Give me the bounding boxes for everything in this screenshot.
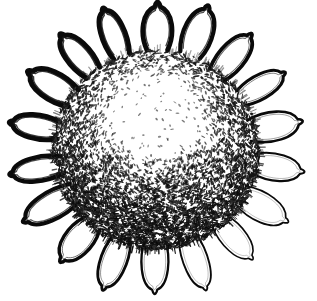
seed-hatch: [236, 175, 239, 176]
seed-hatch: [154, 221, 155, 223]
seed-hatch: [77, 203, 79, 204]
seed-hatch: [185, 206, 186, 209]
seed-hatch: [123, 228, 124, 230]
seed-hatch: [257, 159, 259, 160]
disc-bristle: [257, 165, 262, 166]
seed-hatch: [223, 163, 227, 164]
seed-hatch: [111, 218, 113, 219]
seed-hatch: [141, 207, 143, 208]
seed-hatch: [169, 233, 172, 234]
seed-hatch: [146, 233, 147, 235]
seed-hatch: [168, 167, 169, 169]
seed-hatch: [243, 169, 245, 170]
seed-hatch: [249, 157, 252, 158]
seed-hatch: [96, 201, 98, 202]
disc-bristle: [258, 140, 263, 141]
seed-hatch: [136, 241, 137, 244]
seed-hatch: [174, 215, 175, 218]
seed-mark: [101, 99, 103, 102]
sunflower-illustration: Sunflower: [0, 0, 317, 301]
seed-hatch: [232, 190, 235, 191]
seed-hatch: [115, 195, 116, 198]
seed-hatch: [164, 180, 166, 181]
seed-hatch: [196, 230, 198, 231]
seed-hatch: [99, 169, 100, 170]
seed-hatch: [183, 187, 184, 190]
seed-hatch: [176, 170, 178, 171]
seed-hatch: [172, 174, 173, 176]
seed-hatch: [116, 186, 118, 187]
seed-hatch: [76, 156, 77, 157]
seed-hatch: [172, 197, 173, 199]
seed-hatch: [152, 224, 153, 228]
seed-hatch: [153, 236, 154, 238]
seed-hatch: [65, 194, 68, 195]
seed-hatch: [105, 181, 109, 182]
seed-hatch: [168, 245, 169, 249]
seed-hatch: [68, 192, 70, 193]
seed-hatch: [220, 195, 222, 196]
seed-hatch: [216, 173, 218, 174]
seed-mark: [234, 178, 235, 181]
seed-hatch: [73, 186, 74, 188]
seed-hatch: [149, 206, 150, 209]
seed-hatch: [205, 211, 206, 213]
seed-hatch: [96, 188, 100, 189]
seed-hatch: [153, 192, 154, 193]
disc-bristle: [146, 249, 147, 255]
seed-hatch: [129, 204, 132, 205]
seed-hatch: [221, 190, 223, 191]
seed-hatch: [247, 188, 249, 189]
seed-hatch: [186, 216, 189, 217]
seed-hatch: [214, 178, 216, 179]
seed-hatch: [96, 168, 99, 169]
seed-hatch: [102, 221, 103, 224]
disc-bristle: [52, 169, 56, 170]
seed-hatch: [175, 211, 176, 213]
seed-hatch: [118, 190, 120, 191]
seed-hatch: [152, 182, 153, 184]
illustration-canvas: Sunflower: [0, 0, 317, 301]
seed-hatch: [162, 239, 163, 243]
seed-hatch: [141, 192, 142, 194]
seed-hatch: [144, 217, 145, 219]
seed-hatch: [156, 211, 157, 213]
seed-hatch: [147, 187, 148, 190]
seed-hatch: [122, 234, 123, 237]
seed-hatch: [157, 215, 158, 216]
seed-hatch: [142, 230, 143, 232]
seed-hatch: [124, 242, 125, 244]
seed-hatch: [179, 157, 180, 159]
seed-hatch: [93, 189, 94, 193]
seed-hatch: [238, 164, 242, 165]
seed-hatch: [178, 164, 179, 167]
seed-hatch: [109, 227, 110, 230]
seed-hatch: [173, 165, 175, 166]
seed-hatch: [195, 168, 197, 169]
seed-hatch: [140, 227, 141, 229]
seed-hatch: [198, 221, 199, 224]
seed-hatch: [196, 212, 197, 215]
seed-hatch: [239, 204, 243, 205]
seed-hatch: [133, 173, 134, 175]
disc-bristle: [257, 133, 260, 134]
disc-bristle: [256, 163, 263, 164]
seed-hatch: [145, 162, 146, 164]
seed-hatch: [135, 196, 136, 200]
seed-hatch: [224, 218, 227, 219]
seed-hatch: [125, 158, 128, 159]
seed-hatch: [97, 224, 98, 226]
seed-hatch: [206, 171, 207, 173]
seed-hatch: [164, 234, 165, 236]
disc-bristle: [141, 247, 142, 251]
